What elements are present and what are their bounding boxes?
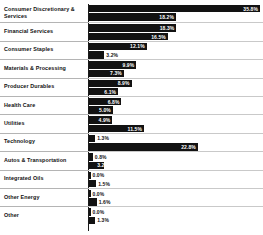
bar-track: 4.9% [89,116,261,123]
row-divider [0,151,88,152]
chart-row: Integrated Oils0.0%1.5% [0,170,263,188]
bar-1 [89,153,93,160]
bar-1 [89,172,91,179]
category-label: Consumer Discretionary & Services [4,6,86,20]
chart-row: Consumer Staples12.1%3.2% [0,41,263,59]
category-label: Other [4,212,86,219]
bar-group: 0.0%1.3% [89,208,261,223]
chart-row: Other Energy0.0%1.6% [0,188,263,206]
chart-rows: Consumer Discretionary & Services35.8%18… [0,4,263,231]
bar-2 [89,217,95,224]
bar-track: 0.0% [89,172,261,179]
bar-group: 1.3%22.8% [89,135,261,150]
bar-value-label: 18.2% [154,14,174,20]
bar-track: 9.9% [89,61,261,68]
bar-group: 0.0%1.6% [89,190,261,205]
category-label: Consumer Staples [4,47,86,54]
bar-track: 0.0% [89,190,261,197]
chart-row: Health Care6.8%5.0% [0,96,263,114]
bar-value-label: 22.8% [176,144,196,150]
chart-row: Producer Durables8.9%6.1% [0,78,263,96]
bar-track: 35.8% [89,5,261,12]
bar-value-label: 3.2% [106,52,118,58]
bar-track: 22.8% [89,143,261,150]
bar-value-label: 9.9% [114,62,134,68]
bar-value-label: 16.5% [146,34,166,40]
bar-2 [89,198,97,205]
category-label: Materials & Processing [4,65,86,72]
chart-row: Other0.0%1.3% [0,206,263,224]
bar-group: 35.8%18.2% [89,5,261,21]
bar-value-label: 4.9% [90,117,110,123]
bar-group: 6.8%5.0% [89,98,261,113]
category-label: Health Care [4,102,86,109]
bar-group: 0.0%1.5% [89,172,261,187]
bar-1 [89,190,91,197]
bar-track: 1.6% [89,198,261,205]
bar-value-label: 8.9% [110,80,130,86]
row-divider [0,41,88,42]
category-label: Integrated Oils [4,176,86,183]
chart-row: Consumer Discretionary & Services35.8%18… [0,4,263,22]
row-divider [0,78,88,79]
category-label: Financial Services [4,29,86,36]
row-divider [0,59,88,60]
bar-value-label: 0.0% [93,191,105,197]
bar-track: 11.5% [89,125,261,132]
bar-track: 1.3% [89,217,261,224]
row-divider [0,170,88,171]
chart-row: Autos & Transportation0.8%3.2% [0,151,263,169]
category-label: Other Energy [4,194,86,201]
chart-row: Financial Services18.3%16.5% [0,22,263,40]
category-label: Producer Durables [4,84,86,91]
bar-value-label: 12.1% [125,43,145,49]
bar-group: 9.9%7.3% [89,61,261,76]
bar-track: 3.2% [89,162,261,169]
bar-value-label: 11.5% [122,126,142,132]
bar-value-label: 3.2% [89,162,109,168]
bar-group: 8.9%6.1% [89,80,261,95]
bar-track: 6.8% [89,98,261,105]
bar-value-label: 18.3% [154,25,174,31]
bar-2 [89,51,104,58]
bar-track: 7.3% [89,70,261,77]
row-divider [0,133,88,134]
bar-track: 18.3% [89,24,261,31]
horizontal-bar-chart: Consumer Discretionary & Services35.8%18… [0,0,263,235]
row-divider [0,96,88,97]
bar-group: 18.3%16.5% [89,24,261,39]
row-divider [0,206,88,207]
bar-track: 16.5% [89,33,261,40]
category-label: Autos & Transportation [4,157,86,164]
bar-value-label: 1.6% [99,199,111,205]
bar-track: 8.9% [89,80,261,87]
bar-track: 6.1% [89,88,261,95]
bar-value-label: 5.0% [91,107,111,113]
bar-track: 12.1% [89,43,261,50]
chart-row: Technology1.3%22.8% [0,133,263,151]
chart-row: Utilities4.9%11.5% [0,114,263,132]
bar-value-label: 6.8% [99,99,119,105]
bar-value-label: 7.3% [102,70,122,76]
bar-value-label: 6.1% [96,89,116,95]
bar-value-label: 0.0% [93,172,105,178]
bar-track: 0.8% [89,153,261,160]
bar-track: 0.0% [89,208,261,215]
row-divider [0,114,88,115]
row-divider [0,188,88,189]
bar-value-label: 0.0% [93,209,105,215]
bar-1 [89,208,91,215]
bar-group: 12.1%3.2% [89,43,261,58]
chart-row: Materials & Processing9.9%7.3% [0,59,263,77]
bar-value-label: 1.3% [97,217,109,223]
category-label: Technology [4,139,86,146]
row-divider [0,22,88,23]
bar-track: 1.5% [89,180,261,187]
bar-track: 5.0% [89,106,261,113]
bar-2 [89,180,96,187]
bar-track: 3.2% [89,51,261,58]
bar-1 [89,5,260,12]
bar-value-label: 1.3% [97,135,109,141]
bar-1 [89,135,95,142]
bar-track: 18.2% [89,13,261,20]
